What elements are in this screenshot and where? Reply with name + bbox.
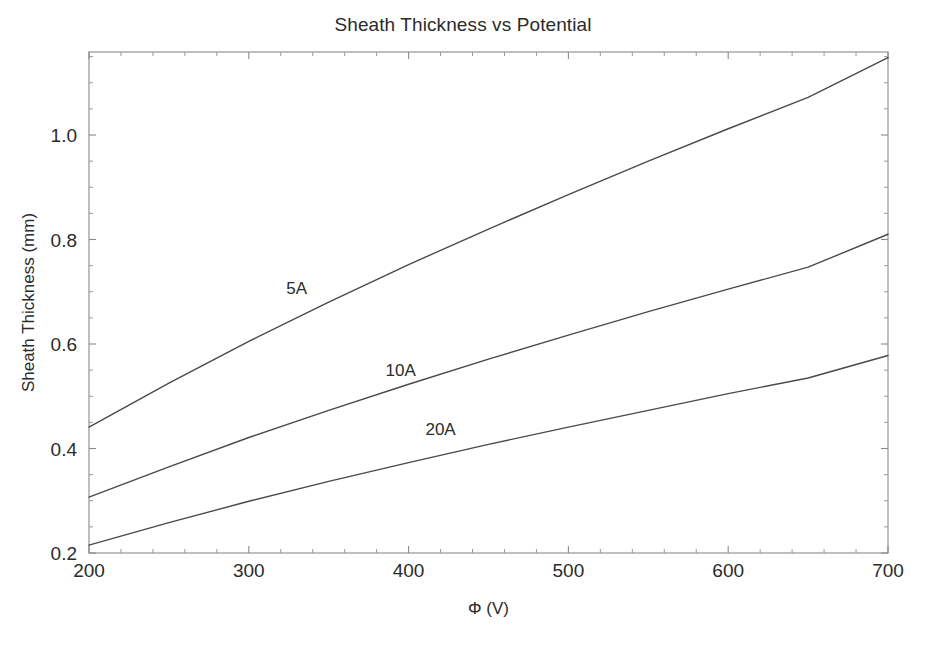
series-label-10a: 10A (385, 361, 416, 380)
axis-frame (89, 52, 888, 553)
x-axis-title: Φ (V) (468, 599, 509, 618)
y-tick-label: 1.0 (51, 125, 77, 146)
x-tick-label: 400 (393, 560, 425, 581)
x-tick-label: 200 (73, 560, 105, 581)
x-tick-label: 500 (553, 560, 585, 581)
x-tick-label: 700 (872, 560, 904, 581)
axis-titles: Φ (V)Sheath Thickness (mm) (19, 213, 509, 618)
y-tick-label: 0.6 (51, 334, 77, 355)
x-tick-label: 300 (233, 560, 265, 581)
y-tick-label: 0.4 (51, 439, 78, 460)
axis-tick-labels: 2003004005006007000.20.40.60.81.0 (51, 125, 904, 581)
plot-frame (89, 52, 888, 553)
series-label-5a: 5A (286, 279, 307, 298)
data-curves (89, 58, 888, 545)
chart-page: Sheath Thickness vs Potential 2003004005… (0, 0, 926, 646)
x-tick-label: 600 (712, 560, 744, 581)
y-axis-title: Sheath Thickness (mm) (19, 213, 38, 392)
y-tick-label: 0.8 (51, 230, 77, 251)
y-tick-label: 0.2 (51, 543, 77, 564)
data-curve-5a (89, 58, 888, 427)
series-label-20a: 20A (425, 420, 456, 439)
data-curve-20a (89, 356, 888, 546)
axis-ticks (89, 52, 888, 553)
plot-area: 2003004005006007000.20.40.60.81.0 5A10A2… (0, 0, 926, 646)
data-curve-10a (89, 234, 888, 497)
